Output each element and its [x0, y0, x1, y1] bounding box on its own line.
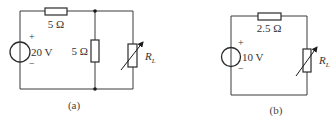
junction-dot	[93, 9, 97, 13]
load-resistor-label: RL	[318, 54, 330, 69]
shunt-resistor-a: 5 Ω	[72, 40, 99, 62]
shunt-resistor-label: 5 Ω	[72, 45, 88, 57]
circuit-diagram: + − 20 V 5 Ω 5 Ω RL (a)	[0, 0, 333, 122]
source-voltage-label: 10 V	[242, 51, 264, 63]
series-resistor-label: 5 Ω	[48, 18, 64, 30]
series-resistor-label: 2.5 Ω	[257, 22, 282, 34]
minus-sign: −	[238, 63, 244, 74]
resistor-icon	[91, 40, 99, 62]
junction-dot	[93, 87, 97, 91]
plus-sign: +	[29, 31, 35, 42]
circuit-a: + − 20 V 5 Ω 5 Ω RL (a)	[10, 8, 156, 112]
minus-sign: −	[29, 58, 35, 69]
load-resistor-b: RL	[296, 47, 330, 76]
series-resistor-b: 2.5 Ω	[257, 13, 282, 34]
caption-b: (b)	[270, 104, 283, 117]
load-resistor-label: RL	[144, 50, 156, 65]
source-voltage-label: 20 V	[31, 46, 53, 58]
circuit-b: + − 10 V 2.5 Ω RL (b)	[222, 13, 330, 117]
load-resistor-a: RL	[121, 42, 156, 70]
plus-sign: +	[238, 37, 244, 48]
caption-a: (a)	[68, 99, 81, 112]
resistor-icon	[258, 13, 281, 20]
resistor-icon	[45, 8, 67, 15]
series-resistor-a: 5 Ω	[45, 8, 67, 30]
voltage-source-b: + − 10 V	[222, 37, 264, 74]
voltage-source-a: + − 20 V	[10, 31, 53, 69]
